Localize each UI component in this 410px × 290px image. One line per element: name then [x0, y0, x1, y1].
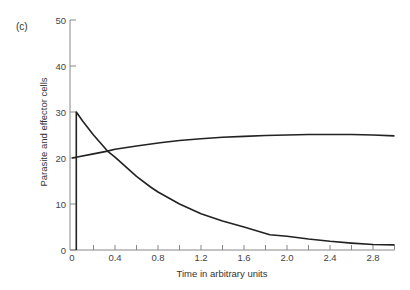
y-tick-label: 30 [55, 107, 66, 118]
y-tick-label: 40 [55, 61, 66, 72]
x-axis: 00.40.81.21.62.02.42.8 [69, 245, 394, 263]
chart: (c) 01020304050 00.40.81.21.62.02.42.8 P… [0, 0, 410, 290]
y-axis-label: Parasite and effector cells [38, 77, 49, 186]
y-tick-label: 10 [55, 199, 66, 210]
series-lines [72, 112, 395, 250]
x-axis-label: Time in arbitrary units [177, 268, 268, 279]
x-tick-label: 1.6 [237, 252, 250, 263]
y-tick-label: 20 [55, 153, 66, 164]
x-tick-label: 2.0 [280, 252, 293, 263]
x-tick-label: 1.2 [194, 252, 207, 263]
y-tick-label: 50 [55, 15, 66, 26]
x-tick-label: 0.8 [151, 252, 164, 263]
x-tick-label: 0.4 [108, 252, 121, 263]
panel-label: (c) [16, 21, 28, 32]
y-tick-label: 0 [61, 245, 66, 256]
effector-curve [72, 135, 395, 159]
x-tick-label: 2.8 [366, 252, 379, 263]
y-axis: 01020304050 [55, 15, 76, 256]
x-tick-label: 2.4 [323, 252, 336, 263]
x-tick-label: 0 [69, 252, 74, 263]
parasite-curve [76, 112, 394, 250]
